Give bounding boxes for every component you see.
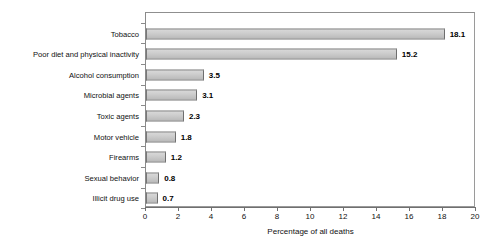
bar [146, 152, 166, 163]
bar-wrapper [146, 172, 159, 183]
x-axis-tick [178, 207, 179, 211]
bar [146, 172, 159, 183]
bar [146, 110, 184, 121]
bar [146, 28, 445, 39]
x-axis-tick-label: 4 [209, 212, 213, 221]
x-axis-tick-label: 2 [176, 212, 180, 221]
x-axis-tick [442, 207, 443, 211]
category-label: Toxic agents [97, 111, 139, 120]
category-label: Tobacco [111, 29, 139, 38]
bar-value-label: 18.1 [450, 29, 466, 38]
bar-value-label: 2.3 [189, 111, 200, 120]
y-axis-tick [141, 126, 145, 127]
x-axis-tick-label: 20 [471, 212, 480, 221]
y-axis-tick [141, 23, 145, 24]
y-axis-tick [141, 64, 145, 65]
x-axis-tick [376, 207, 377, 211]
x-axis-tick [310, 207, 311, 211]
x-axis-tick [244, 207, 245, 211]
y-axis-tick [141, 146, 145, 147]
bar [146, 193, 158, 204]
x-axis-title-text: Percentage of all deaths [267, 227, 353, 236]
x-axis-tick-label: 12 [339, 212, 348, 221]
x-axis-tick-label: 0 [143, 212, 147, 221]
bar-row: Toxic agents2.3 [0, 105, 501, 126]
bar-wrapper [146, 28, 445, 39]
bar-row: Microbial agents3.1 [0, 85, 501, 106]
bar-value-label: 3.1 [202, 91, 213, 100]
bar-row: Alcohol consumption3.5 [0, 64, 501, 85]
x-axis-tick [277, 207, 278, 211]
bar [146, 131, 176, 142]
bar-wrapper [146, 193, 158, 204]
bar-value-label: 15.2 [402, 50, 418, 59]
y-axis-tick [141, 167, 145, 168]
bar-row: Illicit drug use0.7 [0, 188, 501, 209]
bar-value-label: 0.8 [164, 173, 175, 182]
bar-wrapper [146, 131, 176, 142]
bar-wrapper [146, 152, 166, 163]
y-axis-tick [141, 188, 145, 189]
bar-wrapper [146, 69, 204, 80]
x-axis-tick-label: 8 [275, 212, 279, 221]
x-axis-tick-label: 6 [242, 212, 246, 221]
x-axis-tick-label: 16 [405, 212, 414, 221]
bar [146, 49, 397, 60]
bar-wrapper [146, 49, 397, 60]
bar-wrapper [146, 110, 184, 121]
bar [146, 90, 197, 101]
bar-row: Sexual behavior0.8 [0, 167, 501, 188]
y-axis-tick [141, 43, 145, 44]
bar-row: Poor diet and physical inactivity15.2 [0, 44, 501, 65]
category-label: Microbial agents [84, 91, 139, 100]
bar-value-label: 3.5 [209, 70, 220, 79]
category-label: Firearms [109, 153, 139, 162]
x-axis-tick [211, 207, 212, 211]
x-axis-tick [343, 207, 344, 211]
x-axis-title: Percentage of all deaths [0, 227, 501, 236]
x-axis-tick [475, 207, 476, 211]
bar-row: Motor vehicle1.8 [0, 126, 501, 147]
x-axis-tick-label: 14 [372, 212, 381, 221]
y-axis-tick [141, 85, 145, 86]
x-axis-tick [409, 207, 410, 211]
bar-value-label: 1.2 [171, 153, 182, 162]
y-axis-tick [141, 105, 145, 106]
x-axis-tick-label: 10 [306, 212, 315, 221]
category-label: Illicit drug use [93, 194, 139, 203]
bar-value-label: 0.7 [163, 194, 174, 203]
category-label: Motor vehicle [94, 132, 139, 141]
bar-row: Firearms1.2 [0, 147, 501, 168]
bar-wrapper [146, 90, 197, 101]
category-label: Sexual behavior [85, 173, 139, 182]
category-label: Alcohol consumption [69, 70, 139, 79]
bar [146, 69, 204, 80]
category-label: Poor diet and physical inactivity [33, 50, 139, 59]
x-axis-tick [145, 207, 146, 211]
bar-row: Tobacco18.1 [0, 23, 501, 44]
x-axis-tick-label: 18 [438, 212, 447, 221]
bar-chart: Tobacco18.1Poor diet and physical inacti… [0, 0, 501, 251]
bar-value-label: 1.8 [181, 132, 192, 141]
